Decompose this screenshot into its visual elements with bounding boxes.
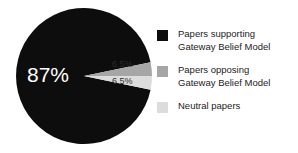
legend-label-neutral: Neutral papers (178, 100, 240, 113)
legend-label-opposing: Papers opposing Gateway Belief Model (178, 64, 270, 89)
legend-swatch-supporting-icon (157, 30, 168, 41)
pie-label-supporting: 87% (27, 63, 69, 87)
pie-label-opposing: 6.5% (112, 59, 133, 69)
chart-legend: Papers supporting Gateway Belief Model P… (157, 28, 298, 124)
pie-label-neutral: 6.5% (112, 76, 133, 86)
pie-svg (0, 0, 160, 153)
legend-item-neutral: Neutral papers (157, 100, 298, 113)
pie-chart-figure: 87% 6.5% 6.5% Papers supporting Gateway … (0, 0, 298, 153)
pie-plot-area: 87% 6.5% 6.5% (0, 0, 160, 153)
legend-label-supporting: Papers supporting Gateway Belief Model (178, 28, 270, 53)
legend-swatch-neutral-icon (157, 102, 168, 113)
legend-item-supporting: Papers supporting Gateway Belief Model (157, 28, 298, 53)
legend-swatch-opposing-icon (157, 66, 168, 77)
legend-item-opposing: Papers opposing Gateway Belief Model (157, 64, 298, 89)
